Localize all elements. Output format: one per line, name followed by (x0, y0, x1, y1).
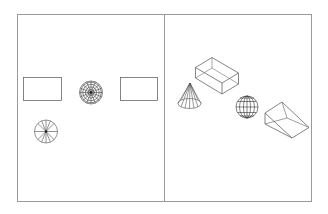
sphere-isometric[interactable] (236, 96, 258, 118)
drawing-canvas (0, 0, 328, 214)
left-viewport[interactable] (18, 15, 165, 202)
cone-top-view[interactable] (35, 120, 58, 143)
frame (18, 15, 312, 202)
sphere-top-view[interactable] (80, 81, 103, 104)
right-viewport[interactable] (165, 15, 312, 202)
